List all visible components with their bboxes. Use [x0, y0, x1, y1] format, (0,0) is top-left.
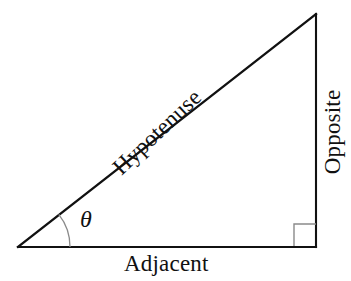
- adjacent-label: Adjacent: [124, 252, 209, 275]
- trigonometry-triangle-figure: Adjacent Opposite Hypotenuse θ: [0, 0, 351, 281]
- angle-arc: [59, 214, 70, 247]
- theta-angle-label: θ: [80, 207, 92, 231]
- triangle-drawing: [0, 0, 351, 281]
- opposite-label: Opposite: [321, 90, 344, 175]
- right-angle-marker: [294, 224, 316, 246]
